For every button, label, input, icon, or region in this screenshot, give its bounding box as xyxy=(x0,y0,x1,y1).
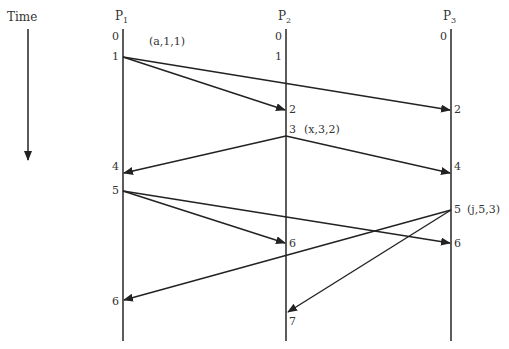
time-label: Time xyxy=(7,11,37,23)
message-p1e1-p2e2 xyxy=(123,57,285,110)
event-label: 0 xyxy=(275,31,282,43)
process-label-p2: P2 xyxy=(278,9,291,25)
event-label: 3 xyxy=(289,124,296,136)
annotation-a: (a,1,1) xyxy=(149,36,185,48)
event-label: 1 xyxy=(275,51,282,63)
event-label: 6 xyxy=(112,296,119,308)
annotation-j: (j,5,3) xyxy=(467,204,500,216)
process-label-p3: P3 xyxy=(443,9,456,25)
event-label: 2 xyxy=(454,104,461,116)
message-p3e5-p2e7 xyxy=(288,210,451,312)
event-label: 6 xyxy=(289,238,296,250)
event-label: 6 xyxy=(454,238,461,250)
event-label: 0 xyxy=(112,31,119,43)
message-p1e5-p2e6 xyxy=(123,191,285,243)
event-label: 4 xyxy=(454,161,461,173)
space-time-diagram xyxy=(0,0,509,349)
event-label: 5 xyxy=(112,185,119,197)
annotation-x: (x,3,2) xyxy=(304,124,340,136)
event-label: 1 xyxy=(112,51,119,63)
process-label-p1: P1 xyxy=(115,9,128,25)
message-p2e3-p1e4 xyxy=(124,136,286,173)
event-label: 2 xyxy=(289,104,296,116)
message-p3e5-p1e6 xyxy=(124,210,451,300)
event-label: 4 xyxy=(112,161,119,173)
event-label: 0 xyxy=(440,31,447,43)
event-label: 5 xyxy=(454,204,461,216)
event-label: 7 xyxy=(289,316,296,328)
message-p2e3-p3e4 xyxy=(286,136,450,173)
